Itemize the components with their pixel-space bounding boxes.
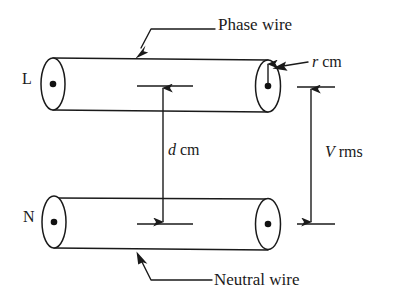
terminal-label-live: L xyxy=(22,71,32,87)
voltage-dimension-label: V rms xyxy=(325,144,363,160)
separation-symbol: d xyxy=(168,141,176,158)
phase-wire-label: Phase wire xyxy=(218,16,292,33)
neutral-wire-callout-leader xyxy=(137,252,213,281)
neutral-wire-label: Neutral wire xyxy=(214,271,299,288)
separation-dimension-label: d cm xyxy=(168,142,200,158)
voltage-symbol: V xyxy=(325,143,335,160)
neutral-conductor-body xyxy=(42,196,281,250)
voltage-unit: rms xyxy=(339,143,363,160)
radius-dimension-label: r cm xyxy=(312,54,342,70)
phase-wire-callout-leader xyxy=(136,29,216,59)
neutral-near-centre-dot xyxy=(51,219,58,226)
terminal-label-neutral: N xyxy=(23,209,35,225)
radius-unit: cm xyxy=(322,53,342,70)
separation-unit: cm xyxy=(180,141,200,158)
phase-conductor-body xyxy=(41,58,281,112)
wire-pair-diagram: Phase wire Neutral wire L N r cm d cm V … xyxy=(0,0,394,305)
phase-near-centre-dot xyxy=(50,81,57,88)
neutral-far-centre-dot xyxy=(265,221,272,228)
